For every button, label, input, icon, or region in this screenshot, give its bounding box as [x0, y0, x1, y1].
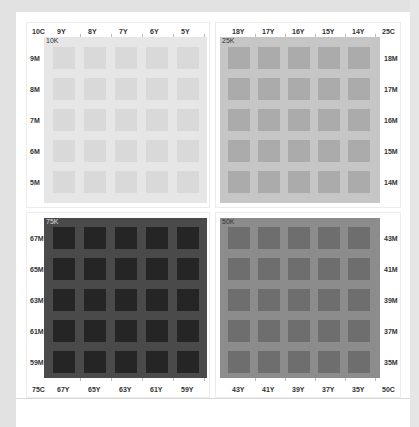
axis-tick [285, 34, 286, 37]
swatch-tile [348, 289, 370, 311]
magenta-label: 67M [30, 235, 44, 243]
swatch-tile [348, 47, 370, 69]
swatch-tile [115, 320, 137, 342]
axis-tick [111, 34, 112, 37]
yellow-label: 5Y [181, 28, 190, 36]
swatch-tile [53, 289, 75, 311]
k-label-25k: 25K [222, 37, 234, 45]
yellow-label: 9Y [57, 28, 66, 36]
swatch-tile [53, 227, 75, 249]
swatch-tile [288, 258, 310, 280]
yellow-label: 17Y [262, 28, 274, 36]
swatch-tile [146, 47, 168, 69]
swatch-tile [53, 140, 75, 162]
swatch-tile [288, 351, 310, 373]
yellow-label: 35Y [352, 386, 364, 394]
swatch-tile [228, 109, 250, 131]
axis-tick [285, 378, 286, 381]
magenta-label: 8M [30, 86, 40, 94]
swatch-tile [228, 351, 250, 373]
axis-tick [255, 34, 256, 37]
swatch-tile [146, 140, 168, 162]
swatch-tile [146, 78, 168, 100]
swatch-tile [115, 258, 137, 280]
swatch-tile [84, 351, 106, 373]
swatch-tile [318, 47, 340, 69]
axis-tick [173, 34, 174, 37]
axis-tick [345, 378, 346, 381]
swatch-tile [228, 171, 250, 193]
swatch-tile [228, 289, 250, 311]
swatch-tile [318, 289, 340, 311]
swatch-tile [53, 351, 75, 373]
swatch-tile [115, 171, 137, 193]
swatch-tile [53, 47, 75, 69]
swatch-tile [258, 140, 280, 162]
swatch-tile [348, 227, 370, 249]
swatch-tile [258, 109, 280, 131]
swatch-grid-25k: 25K [220, 37, 380, 203]
axis-tick [173, 378, 174, 381]
corner-label-75k: 75C [32, 386, 45, 394]
yellow-label: 18Y [232, 28, 244, 36]
magenta-label: 18M [384, 55, 398, 63]
swatch-grid-50k: 50K [220, 218, 380, 378]
magenta-label: 61M [30, 328, 44, 336]
magenta-label: 17M [384, 86, 398, 94]
magenta-label: 59M [30, 359, 44, 367]
swatch-tile [177, 171, 199, 193]
swatch-tile [53, 171, 75, 193]
swatch-tile [53, 258, 75, 280]
yellow-label: 7Y [119, 28, 128, 36]
swatch-tile [115, 351, 137, 373]
swatch-tile [318, 227, 340, 249]
magenta-label: 16M [384, 117, 398, 125]
axis-tick [80, 34, 81, 37]
k-label-10k: 10K [46, 37, 58, 45]
swatch-tile [348, 320, 370, 342]
swatch-tile [228, 78, 250, 100]
yellow-label: 65Y [88, 386, 100, 394]
swatch-tile [177, 320, 199, 342]
yellow-label: 14Y [352, 28, 364, 36]
magenta-label: 37M [384, 328, 398, 336]
axis-tick [375, 378, 376, 381]
axis-tick [111, 378, 112, 381]
swatch-tile [288, 227, 310, 249]
swatch-tile [177, 258, 199, 280]
magenta-label: 6M [30, 148, 40, 156]
swatch-tile [84, 227, 106, 249]
yellow-label: 61Y [150, 386, 162, 394]
axis-tick [255, 378, 256, 381]
swatch-tile [288, 140, 310, 162]
swatch-tile [348, 140, 370, 162]
swatch-tile [258, 78, 280, 100]
swatch-tile [228, 227, 250, 249]
swatch-tile [288, 171, 310, 193]
swatch-tile [146, 289, 168, 311]
swatch-tile [348, 109, 370, 131]
yellow-label: 37Y [322, 386, 334, 394]
axis-tick [345, 34, 346, 37]
axis-tick [315, 378, 316, 381]
swatch-tile [53, 320, 75, 342]
swatch-tile [84, 47, 106, 69]
page-edge [410, 0, 419, 427]
swatch-tile [228, 47, 250, 69]
swatch-tile [348, 171, 370, 193]
swatch-tile [288, 78, 310, 100]
swatch-tile [318, 320, 340, 342]
yellow-label: 6Y [150, 28, 159, 36]
yellow-label: 63Y [119, 386, 131, 394]
swatch-tile [84, 289, 106, 311]
swatch-tile [258, 227, 280, 249]
swatch-tile [318, 351, 340, 373]
magenta-label: 5M [30, 179, 40, 187]
swatch-tile [146, 258, 168, 280]
corner-label-25k: 25C [382, 28, 395, 36]
swatch-tile [177, 47, 199, 69]
yellow-label: 8Y [88, 28, 97, 36]
swatch-tile [258, 258, 280, 280]
swatch-tile [228, 140, 250, 162]
swatch-tile [288, 320, 310, 342]
